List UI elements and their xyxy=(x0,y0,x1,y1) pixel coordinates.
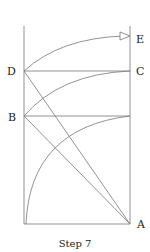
arc-d-to-e xyxy=(24,36,124,71)
label-e: E xyxy=(136,33,144,46)
label-b: B xyxy=(8,111,16,124)
caption: Step 7 xyxy=(59,238,92,249)
geometry-diagram: E D C B A Step 7 xyxy=(0,0,150,252)
label-c: C xyxy=(136,65,144,78)
label-d: D xyxy=(7,65,16,78)
arrowhead-icon xyxy=(120,32,130,40)
line-ba xyxy=(24,116,130,224)
line-da xyxy=(24,71,130,224)
label-a: A xyxy=(136,218,146,231)
